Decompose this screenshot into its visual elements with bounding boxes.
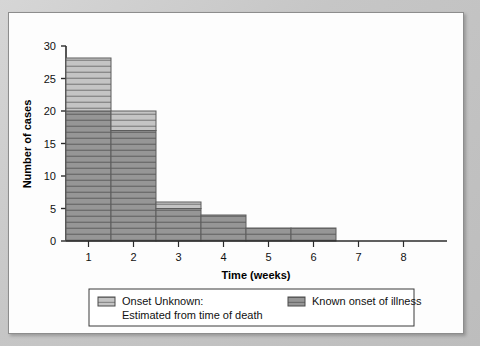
bar-week-4-known[interactable]: [201, 215, 246, 241]
x-axis: 1 2 3 4 5 6 7 8 Time (weeks): [66, 241, 447, 281]
y-tick-label-0: 0: [50, 235, 56, 247]
y-axis-title: Number of cases: [21, 100, 33, 189]
y-axis: 30 25 20 15 10 5 0 Number of cases: [21, 40, 66, 247]
legend-label-onset-unknown-line1: Onset Unknown:: [122, 295, 203, 307]
x-tick-label-8: 8: [400, 251, 406, 263]
bar-week-2[interactable]: [111, 111, 156, 241]
bar-week-3-known[interactable]: [156, 209, 201, 242]
x-tick-label-1: 1: [85, 251, 91, 263]
bar-week-1-known[interactable]: [66, 111, 111, 241]
bar-week-2-unknown[interactable]: [111, 111, 156, 131]
bar-week-3-unknown[interactable]: [156, 202, 201, 209]
bar-week-6-known[interactable]: [291, 228, 336, 241]
x-tick-label-6: 6: [310, 251, 316, 263]
x-tick-label-3: 3: [175, 251, 181, 263]
y-tick-label-20: 20: [44, 105, 56, 117]
bar-week-5[interactable]: [246, 228, 291, 241]
x-tick-label-2: 2: [130, 251, 136, 263]
bar-week-5-known[interactable]: [246, 228, 291, 241]
y-tick-label-25: 25: [44, 73, 56, 85]
x-axis-title: Time (weeks): [222, 269, 291, 281]
x-tick-label-5: 5: [265, 251, 271, 263]
legend-swatch-known-onset: [288, 297, 305, 306]
legend: Onset Unknown: Estimated from time of de…: [89, 289, 422, 326]
bar-week-6[interactable]: [291, 228, 336, 241]
x-tick-label-7: 7: [355, 251, 361, 263]
legend-label-onset-unknown-line2: Estimated from time of death: [122, 309, 263, 321]
y-tick-label-10: 10: [44, 170, 56, 182]
bar-week-4[interactable]: [201, 215, 246, 241]
legend-swatch-onset-unknown: [98, 297, 115, 306]
bar-week-1-unknown[interactable]: [66, 58, 111, 111]
bar-week-1[interactable]: [66, 58, 111, 241]
y-tick-label-30: 30: [44, 40, 56, 52]
y-tick-label-5: 5: [50, 203, 56, 215]
chart-card: 30 25 20 15 10 5 0 Number of cases: [8, 12, 464, 334]
bar-week-2-known[interactable]: [111, 131, 156, 242]
x-tick-label-4: 4: [220, 251, 226, 263]
bars-group: [66, 58, 336, 241]
bar-week-3[interactable]: [156, 202, 201, 241]
legend-label-known-onset: Known onset of illness: [312, 295, 422, 307]
histogram-chart: 30 25 20 15 10 5 0 Number of cases: [9, 13, 465, 335]
y-tick-label-15: 15: [44, 138, 56, 150]
